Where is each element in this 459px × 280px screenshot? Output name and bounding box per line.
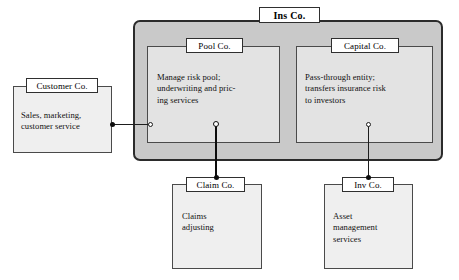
ins-co-label: Ins Co. bbox=[259, 7, 320, 23]
claim-co-body: Claims adjusting bbox=[182, 211, 262, 234]
capital-co-body: Pass-through entity; transfers insurance… bbox=[305, 72, 433, 106]
connector-pool-to-claim bbox=[215, 124, 217, 178]
connector-inv-endpoint-dot bbox=[366, 175, 371, 180]
diagram-canvas: Manage risk pool; underwriting and pric-… bbox=[0, 0, 459, 280]
connector-capital-bottom-endpoint-circle bbox=[366, 122, 371, 127]
connector-customer-endpoint-dot bbox=[110, 122, 115, 127]
inv-co-body: Asset management services bbox=[333, 211, 413, 245]
capital-co-label: Capital Co. bbox=[331, 38, 399, 53]
connector-capital-to-inv bbox=[368, 125, 369, 177]
connector-pool-left-endpoint-circle bbox=[148, 122, 153, 127]
customer-co-label: Customer Co. bbox=[26, 78, 98, 93]
customer-co-body: Sales, marketing, customer service bbox=[21, 110, 113, 133]
connector-customer-to-pool bbox=[113, 124, 151, 125]
connector-claim-endpoint-dot bbox=[214, 175, 219, 180]
pool-co-label: Pool Co. bbox=[186, 38, 243, 53]
pool-co-body: Manage risk pool; underwriting and pric-… bbox=[157, 72, 277, 106]
